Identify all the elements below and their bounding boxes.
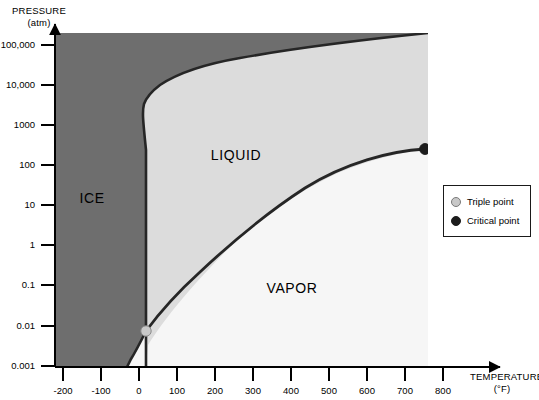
y-axis-ticks <box>41 45 55 366</box>
y-tick-label: 1000 <box>0 119 35 130</box>
triple-point-marker <box>141 326 151 336</box>
y-tick-label: 0.1 <box>0 279 35 290</box>
legend-label-triple-point: Triple point <box>467 196 514 207</box>
region-label-ice: ICE <box>79 190 104 206</box>
phase-diagram: PRESSURE (atm) TEMPERATURE (°F) 100,000 … <box>0 0 539 400</box>
y-tick-label: 100,000 <box>0 39 35 50</box>
legend-label-critical-point: Critical point <box>467 215 519 226</box>
y-tick-label: 10 <box>0 199 35 210</box>
critical-point-marker <box>420 144 431 155</box>
x-tick-label: 800 <box>421 385 465 396</box>
legend: Triple point Critical point <box>443 185 531 237</box>
y-tick-label: 0.01 <box>0 320 35 331</box>
x-axis-title-text: TEMPERATURE <box>470 371 534 383</box>
legend-item-triple-point: Triple point <box>451 196 514 207</box>
x-axis-title: TEMPERATURE (°F) <box>470 371 534 395</box>
region-label-vapor: VAPOR <box>267 280 318 296</box>
y-tick-label: 10,000 <box>0 79 35 90</box>
y-axis-title-text: PRESSURE <box>6 5 72 17</box>
x-axis-ticks <box>63 367 443 381</box>
region-label-liquid: LIQUID <box>211 147 261 163</box>
y-tick-label: 100 <box>0 159 35 170</box>
y-tick-label: 1 <box>0 239 35 250</box>
y-axis-title: PRESSURE (atm) <box>6 5 72 29</box>
legend-item-critical-point: Critical point <box>451 215 519 226</box>
y-tick-label: 0.001 <box>0 360 35 371</box>
triple-point-swatch-icon <box>451 197 461 207</box>
critical-point-swatch-icon <box>451 216 461 226</box>
x-axis-unit-text: (°F) <box>470 383 534 395</box>
y-axis-unit-text: (atm) <box>6 17 72 29</box>
